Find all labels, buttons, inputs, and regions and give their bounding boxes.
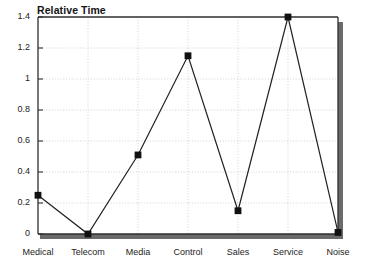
x-tick-label-media: Media: [126, 247, 151, 257]
y-tick-label-1: 1: [4, 73, 30, 83]
data-point-telecom: [85, 231, 92, 238]
chart-container: Relative Time: [0, 0, 376, 276]
y-tick-label-1-4: 1.4: [4, 11, 30, 21]
data-point-sales: [235, 207, 242, 214]
y-tick-label-1-2: 1.2: [4, 42, 30, 52]
plot-area-background: [38, 17, 338, 234]
x-tick-label-service: Service: [273, 247, 303, 257]
chart-plot: [0, 0, 376, 276]
y-tick-label-0-2: 0.2: [4, 197, 30, 207]
y-tick-label-0: 0: [4, 228, 30, 238]
data-point-media: [135, 152, 142, 159]
x-tick-label-noise: Noise: [326, 247, 349, 257]
data-point-medical: [35, 192, 42, 199]
y-tick-label-0-8: 0.8: [4, 104, 30, 114]
x-tick-label-control: Control: [173, 247, 202, 257]
x-tick-label-medical: Medical: [22, 247, 53, 257]
data-point-service: [285, 14, 292, 21]
y-tick-label-0-4: 0.4: [4, 166, 30, 176]
data-point-noise: [335, 229, 342, 236]
x-tick-label-sales: Sales: [227, 247, 250, 257]
y-tick-label-0-6: 0.6: [4, 135, 30, 145]
frame-shadow-right: [338, 22, 343, 237]
x-tick-label-telecom: Telecom: [71, 247, 105, 257]
data-point-control: [185, 52, 192, 59]
